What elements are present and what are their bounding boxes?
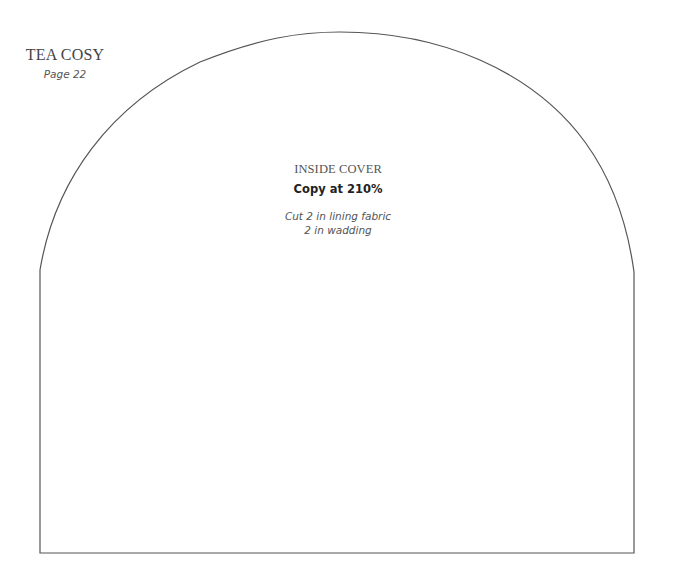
- cut-instruction-line: 2 in wadding: [238, 223, 438, 237]
- pattern-label-block: INSIDE COVER Copy at 210% Cut 2 in linin…: [238, 161, 438, 237]
- cut-instructions: Cut 2 in lining fabric 2 in wadding: [238, 209, 438, 237]
- piece-name: INSIDE COVER: [238, 161, 438, 177]
- pattern-outline: [0, 0, 675, 578]
- cut-instruction-line: Cut 2 in lining fabric: [238, 209, 438, 223]
- header-block: TEA COSY Page 22: [20, 45, 110, 81]
- pattern-title: TEA COSY: [20, 45, 110, 65]
- page-reference: Page 22: [20, 67, 110, 81]
- copy-instruction: Copy at 210%: [238, 181, 438, 197]
- pattern-piece-shape: [40, 32, 634, 553]
